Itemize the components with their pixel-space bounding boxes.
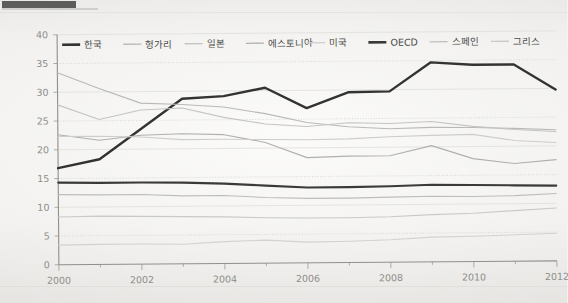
x-tick-label: 2000 <box>47 275 71 286</box>
legend-label-일본: 일본 <box>207 38 225 49</box>
series-line-하위선 <box>59 233 557 245</box>
gridline <box>58 117 556 121</box>
y-tick-label: 40 <box>36 29 48 40</box>
y-tick-label: 30 <box>36 87 48 98</box>
series-line-그리스 <box>58 208 556 220</box>
y-axis-labels: 0510152025303540 <box>36 29 50 270</box>
gridline <box>57 31 555 35</box>
legend-label-에스토니아: 에스토니아 <box>268 37 313 48</box>
legend-label-한국: 한국 <box>84 39 102 50</box>
chart-legend: 한국헝가리일본에스토니아미국OECD스페인그리스 <box>62 36 540 51</box>
y-tick-label: 25 <box>37 115 49 126</box>
y-tick-label: 35 <box>36 58 48 69</box>
gridline <box>58 203 556 207</box>
gridline <box>57 60 555 64</box>
legend-label-그리스: 그리스 <box>513 36 540 47</box>
x-tick-label: 2006 <box>296 273 320 284</box>
legend-label-미국: 미국 <box>329 37 347 48</box>
x-axis-labels: 2000200220042006200820102012 <box>47 271 568 286</box>
series-line-일본 <box>58 101 556 135</box>
series-line-OECD <box>58 179 556 190</box>
y-tick-label: 20 <box>37 144 49 155</box>
gridline <box>58 88 556 92</box>
x-tick-label: 2010 <box>462 271 486 282</box>
y-tick-label: 5 <box>44 230 50 241</box>
gridline <box>58 175 556 179</box>
x-tick-label: 2012 <box>545 271 568 282</box>
legend-label-헝가리: 헝가리 <box>145 38 172 49</box>
series-line-스페인 <box>58 191 556 201</box>
legend-label-OECD: OECD <box>390 37 418 48</box>
x-tick-label: 2008 <box>379 272 403 283</box>
y-tick-label: 10 <box>37 202 49 213</box>
legend-label-스페인: 스페인 <box>452 36 479 47</box>
line-chart: 0510152025303540 20002002200420062008201… <box>0 0 568 303</box>
series-line-헝가리 <box>57 69 555 134</box>
y-tick-label: 0 <box>44 259 50 270</box>
chart-gridlines <box>57 31 557 236</box>
x-tick-label: 2002 <box>130 274 154 285</box>
y-tick-label: 15 <box>37 173 49 184</box>
gridline <box>58 146 556 150</box>
x-tick-label: 2004 <box>213 273 237 284</box>
series-line-한국 <box>57 61 556 168</box>
